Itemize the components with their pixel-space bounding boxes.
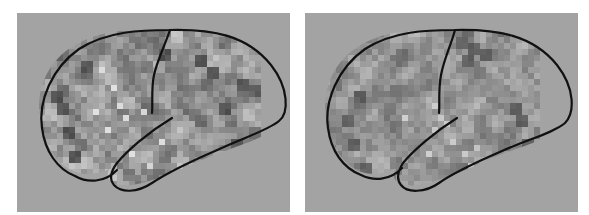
brain-heatmap-left (17, 13, 290, 212)
brain-heatmap-right (305, 13, 578, 212)
brain-map-panel-right (305, 13, 578, 212)
brain-map-panel-left (17, 13, 290, 212)
heatmap-cells-left (39, 31, 261, 205)
